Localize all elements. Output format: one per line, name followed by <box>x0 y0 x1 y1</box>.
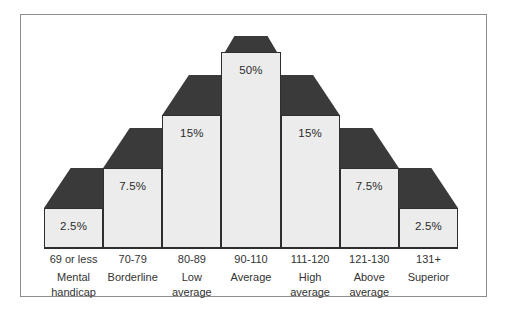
axis-label-131-plus: 131+ Superior <box>399 252 458 285</box>
bar-cap-80-89 <box>162 75 221 115</box>
bar-column-80-89: 15% <box>162 30 221 248</box>
baseline-axis <box>44 248 458 249</box>
bar-column-69-or-less: 2.5% <box>44 30 103 248</box>
bar-value-80-89: 15% <box>162 127 221 139</box>
bar-face-90-110 <box>221 52 280 248</box>
axis-name-70-79-line1: Borderline <box>103 270 162 285</box>
bar-column-111-120: 15% <box>281 30 340 248</box>
axis-name-111-120-line1: High <box>281 270 340 285</box>
bar-value-90-110: 50% <box>221 64 280 76</box>
axis-label-121-130: 121-130 Above average <box>340 252 399 300</box>
axis-range-70-79: 70-79 <box>103 252 162 267</box>
bar-cap-121-130 <box>340 128 399 168</box>
axis-label-80-89: 80-89 Low average <box>162 252 221 300</box>
bar-cap-69-or-less <box>44 168 103 208</box>
axis-range-90-110: 90-110 <box>221 252 280 267</box>
axis-name-111-120-line2: average <box>281 285 340 300</box>
bar-value-131-plus: 2.5% <box>399 220 458 232</box>
axis-range-121-130: 121-130 <box>340 252 399 267</box>
bar-cap-70-79 <box>103 128 162 168</box>
axis-range-80-89: 80-89 <box>162 252 221 267</box>
axis-name-69-or-less-line2: handicap <box>44 285 103 300</box>
bar-value-70-79: 7.5% <box>103 180 162 192</box>
axis-range-69-or-less: 69 or less <box>44 252 103 267</box>
plot-area: 2.5% 7.5% 15% 50% 15% <box>44 30 458 248</box>
axis-name-131-plus-line1: Superior <box>399 270 458 285</box>
axis-name-69-or-less-line1: Mental <box>44 270 103 285</box>
axis-name-80-89-line2: average <box>162 285 221 300</box>
bar-column-121-130: 7.5% <box>340 30 399 248</box>
bar-value-69-or-less: 2.5% <box>44 220 103 232</box>
bar-cap-111-120 <box>281 75 340 115</box>
iq-distribution-chart: 2.5% 7.5% 15% 50% 15% <box>0 0 506 317</box>
axis-range-111-120: 111-120 <box>281 252 340 267</box>
x-axis-labels: 69 or less Mental handicap 70-79 Borderl… <box>44 252 458 296</box>
axis-label-69-or-less: 69 or less Mental handicap <box>44 252 103 300</box>
axis-label-111-120: 111-120 High average <box>281 252 340 300</box>
bar-column-131-plus: 2.5% <box>399 30 458 248</box>
bar-value-111-120: 15% <box>281 127 340 139</box>
axis-label-70-79: 70-79 Borderline <box>103 252 162 285</box>
axis-label-90-110: 90-110 Average <box>221 252 280 285</box>
axis-name-121-130-line1: Above <box>340 270 399 285</box>
bar-column-90-110: 50% <box>221 30 280 248</box>
bar-value-121-130: 7.5% <box>340 180 399 192</box>
axis-range-131-plus: 131+ <box>399 252 458 267</box>
bar-column-70-79: 7.5% <box>103 30 162 248</box>
axis-name-80-89-line1: Low <box>162 270 221 285</box>
bar-cap-131-plus <box>399 168 458 208</box>
axis-name-90-110-line1: Average <box>221 270 280 285</box>
axis-name-121-130-line2: average <box>340 285 399 300</box>
